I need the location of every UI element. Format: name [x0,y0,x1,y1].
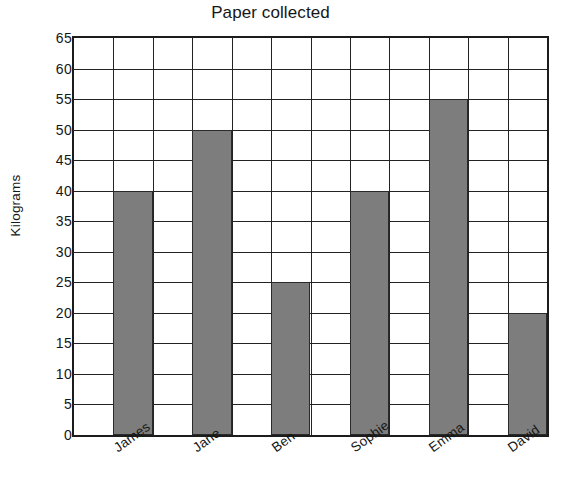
vertical-gridline [389,38,390,435]
vertical-gridline [311,38,312,435]
y-tick-label-60: 60 [28,62,72,76]
bar-ben [271,282,310,435]
y-tick-label-65: 65 [28,31,72,45]
y-tick-label-30: 30 [28,245,72,259]
bar-emma [429,99,468,435]
y-tick-label-35: 35 [28,214,72,228]
y-tick-label-20: 20 [28,306,72,320]
vertical-gridline [232,38,233,435]
plot-inner [74,38,547,435]
y-tick-label-15: 15 [28,336,72,350]
y-tick-label-40: 40 [28,184,72,198]
y-tick-label-25: 25 [28,275,72,289]
chart-title: Paper collected [0,3,567,23]
y-tick-label-5: 5 [28,397,72,411]
y-tick-label-55: 55 [28,92,72,106]
y-tick-label-50: 50 [28,123,72,137]
y-tick-label-45: 45 [28,153,72,167]
chart-title-text: Paper collected [211,3,330,23]
bar-sophie [350,191,389,435]
vertical-gridline [153,38,154,435]
y-axis-tick-group: 05101520253035404550556065 [18,36,72,437]
x-axis-label-group: JamesJaneBenSophieEmmaDavid [72,437,549,501]
bar-jane [192,130,231,435]
plot-area [72,36,549,437]
bar-james [113,191,152,435]
y-tick-label-10: 10 [28,367,72,381]
vertical-gridline [468,38,469,435]
bar-david [508,313,547,435]
y-tick-label-0: 0 [28,428,72,442]
